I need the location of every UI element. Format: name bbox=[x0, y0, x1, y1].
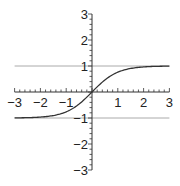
x-tick-label: −2 bbox=[33, 95, 48, 110]
y-tick-label: −1 bbox=[73, 111, 88, 126]
y-tick-label: −2 bbox=[73, 137, 88, 152]
y-tick-label: −3 bbox=[73, 163, 88, 178]
y-tick-label: 3 bbox=[81, 7, 88, 22]
x-tick-label: −3 bbox=[7, 95, 22, 110]
x-tick-label: 3 bbox=[166, 95, 173, 110]
y-tick-label: 1 bbox=[81, 59, 88, 74]
x-tick-label: −1 bbox=[59, 95, 74, 110]
tanh-chart: −3−2−1123−3−2−1123 bbox=[0, 0, 180, 186]
x-tick-label: 2 bbox=[140, 95, 147, 110]
x-tick-label: 1 bbox=[114, 95, 121, 110]
y-tick-label: 2 bbox=[81, 33, 88, 48]
